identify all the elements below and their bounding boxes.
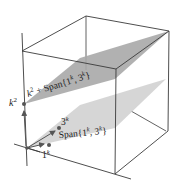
label-1k: 1k (42, 148, 50, 160)
subspace-diagram: k2 k2 + Span{1k, 3k} 3k Span{1k, 3k} 1k (0, 0, 181, 186)
k2-point (22, 102, 26, 106)
1k-point (47, 143, 51, 147)
vertical-axis (22, 33, 27, 166)
label-k2: k2 (9, 96, 17, 108)
origin-point (25, 146, 29, 150)
